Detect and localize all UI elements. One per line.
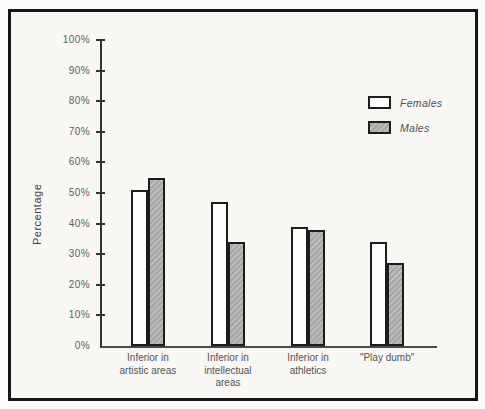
legend-label: Males (400, 122, 430, 134)
bar-females-group1 (131, 190, 148, 346)
x-category-label-line: athletics (256, 365, 360, 378)
y-tick-mark (96, 39, 105, 41)
plot-area: 0%10%20%30%40%50%60%70%80%90%100%Inferio… (100, 40, 437, 348)
legend-label: Females (400, 97, 442, 109)
legend-item-females: Females (368, 96, 442, 109)
bar-males-group2 (228, 242, 245, 346)
y-tick-mark (96, 70, 105, 72)
y-tick-mark (96, 192, 105, 194)
y-tick-label: 30% (48, 248, 90, 260)
y-tick-label: 40% (48, 218, 90, 230)
y-tick-label: 20% (48, 279, 90, 291)
legend-swatch-males (368, 121, 391, 134)
y-tick-mark (96, 253, 105, 255)
bar-males-group4 (387, 263, 404, 346)
y-tick-label: 100% (48, 34, 90, 46)
y-tick-mark (96, 100, 105, 102)
legend-swatch-females (368, 96, 391, 109)
bar-females-group3 (291, 227, 308, 346)
y-tick-label: 0% (48, 340, 90, 352)
bar-males-group3 (308, 230, 325, 346)
chart-frame: Percentage 0%10%20%30%40%50%60%70%80%90%… (8, 9, 478, 401)
y-tick-label: 60% (48, 156, 90, 168)
y-axis-title-text: Percentage (31, 184, 43, 245)
x-category-label: "Play dumb" (335, 352, 439, 365)
y-tick-label: 70% (48, 126, 90, 138)
y-tick-label: 10% (48, 309, 90, 321)
y-tick-label: 80% (48, 95, 90, 107)
y-tick-mark (96, 223, 105, 225)
x-category-label-line: areas (176, 377, 280, 390)
legend: FemalesMales (368, 96, 442, 146)
bar-females-group2 (211, 202, 228, 346)
y-tick-mark (96, 284, 105, 286)
bar-females-group4 (370, 242, 387, 346)
legend-item-males: Males (368, 121, 442, 134)
y-tick-mark (96, 161, 105, 163)
y-tick-label: 90% (48, 65, 90, 77)
y-tick-mark (96, 314, 105, 316)
y-tick-mark (96, 131, 105, 133)
bar-males-group1 (148, 178, 165, 346)
x-category-label-line: "Play dumb" (335, 352, 439, 365)
y-tick-label: 50% (48, 187, 90, 199)
